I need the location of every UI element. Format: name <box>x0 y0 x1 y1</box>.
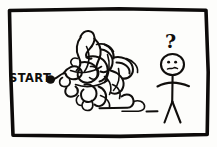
left-eye <box>167 61 170 64</box>
comic-panel: START <box>0 0 217 147</box>
comic-drawing: START <box>0 0 217 147</box>
question-mark-icon: ? <box>165 30 176 52</box>
start-dot-icon <box>46 75 55 83</box>
right-eye <box>174 61 177 64</box>
start-label: START <box>9 71 51 85</box>
